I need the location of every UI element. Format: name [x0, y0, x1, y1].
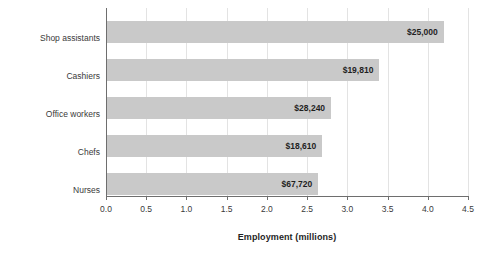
tickmark-3.5: [388, 196, 389, 200]
xtick-label-8: 4.0: [408, 204, 448, 214]
xtick-label-1: 0.5: [126, 204, 166, 214]
bar-value-chefs: $18,610: [106, 135, 322, 157]
tickmark-2.0: [267, 196, 268, 200]
tickmark-0.5: [146, 196, 147, 200]
category-axis: Shop assistants Cashiers Office workers …: [0, 8, 100, 196]
xtick-label-4: 2.0: [247, 204, 287, 214]
gridline-4.5: [468, 8, 469, 196]
xtick-label-3: 1.5: [207, 204, 247, 214]
tickmark-4.0: [428, 196, 429, 200]
bar-value-nurses: $67,720: [106, 173, 318, 195]
tickmark-0.0: [106, 196, 107, 200]
tickmark-1.0: [186, 196, 187, 200]
tickmark-1.5: [227, 196, 228, 200]
bar-chart: Shop assistants Cashiers Office workers …: [0, 0, 502, 254]
category-label-shop-assistants: Shop assistants: [0, 33, 100, 43]
y-axis-line: [106, 8, 107, 196]
x-axis-line: [106, 196, 468, 197]
xtick-label-6: 3.0: [327, 204, 367, 214]
category-label-office-workers: Office workers: [0, 109, 100, 119]
tickmark-4.5: [468, 196, 469, 200]
bar-value-office-workers: $28,240: [106, 97, 331, 119]
xtick-label-5: 2.5: [287, 204, 327, 214]
xtick-label-9: 4.5: [448, 204, 488, 214]
xtick-label-7: 3.5: [368, 204, 408, 214]
tickmark-2.5: [307, 196, 308, 200]
xtick-label-2: 1.0: [166, 204, 206, 214]
category-label-chefs: Chefs: [0, 147, 100, 157]
category-label-nurses: Nurses: [0, 185, 100, 195]
category-label-cashiers: Cashiers: [0, 71, 100, 81]
plot-area: $25,000 $19,810 $28,240 $18,610 $67,720 …: [106, 8, 468, 196]
bar-value-shop-assistants: $25,000: [106, 21, 444, 43]
xtick-label-0: 0.0: [86, 204, 126, 214]
bar-value-cashiers: $19,810: [106, 59, 379, 81]
x-axis-title: Employment (millions): [106, 232, 468, 242]
tickmark-3.0: [347, 196, 348, 200]
